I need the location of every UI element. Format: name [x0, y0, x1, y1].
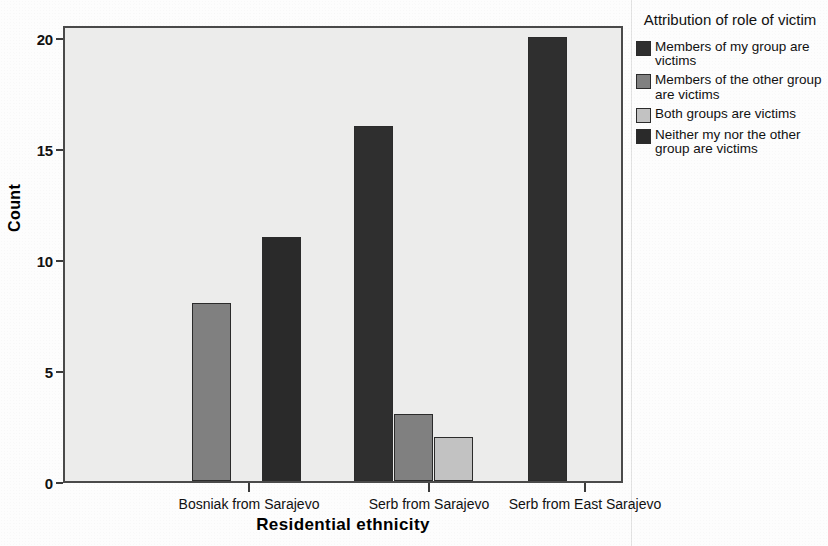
bar — [354, 126, 393, 481]
legend-item: Members of my group are victims — [636, 40, 824, 69]
legend-item: Neither my nor the other group are victi… — [636, 128, 824, 157]
y-axis-tick-mark — [56, 371, 63, 373]
legend-item: Both groups are victims — [636, 107, 824, 123]
column-divider — [631, 0, 632, 546]
bars-layer — [65, 28, 621, 481]
y-axis-title: Count — [6, 184, 24, 232]
legend: Attribution of role of victim Members of… — [636, 12, 824, 162]
legend-swatch — [636, 74, 651, 89]
legend-item-label: Neither my nor the other group are victi… — [655, 128, 824, 157]
y-axis-tick-label: 10 — [37, 254, 56, 269]
legend-item-label: Members of my group are victims — [655, 40, 824, 69]
y-axis-tick-label: 0 — [45, 476, 56, 491]
x-axis-tick-label: Serb from Sarajevo — [369, 496, 490, 512]
bar — [434, 437, 473, 481]
bar — [394, 414, 433, 481]
y-axis: 20151050 — [0, 0, 63, 546]
bar — [192, 303, 231, 481]
legend-item-label: Both groups are victims — [655, 107, 796, 121]
legend-swatch — [636, 108, 651, 123]
x-axis-tick-mark — [584, 483, 586, 492]
legend-item: Members of the other group are victims — [636, 73, 824, 102]
y-axis-tick-mark — [56, 482, 63, 484]
y-axis-tick-mark — [56, 260, 63, 262]
y-axis-tick-mark — [56, 38, 63, 40]
x-axis-tick-label: Bosniak from Sarajevo — [179, 496, 320, 512]
y-axis-tick-mark — [56, 149, 63, 151]
x-axis-title: Residential ethnicity — [63, 515, 623, 535]
y-axis-tick-label: 15 — [37, 143, 56, 158]
plot-area — [63, 26, 623, 483]
x-axis-tick-mark — [248, 483, 250, 492]
legend-swatch — [636, 41, 651, 56]
y-axis-tick-label: 5 — [45, 365, 56, 380]
x-axis-tick-mark — [428, 483, 430, 492]
x-axis-tick-label: Serb from East Sarajevo — [509, 496, 662, 512]
y-axis-tick-label: 20 — [37, 32, 56, 47]
bar — [262, 237, 301, 481]
legend-swatch — [636, 129, 651, 144]
legend-title: Attribution of role of victim — [636, 12, 824, 29]
bar-chart-figure: 20151050 Count Bosniak from SarajevoSerb… — [0, 0, 828, 546]
legend-item-label: Members of the other group are victims — [655, 73, 824, 102]
legend-items: Members of my group are victimsMembers o… — [636, 40, 824, 157]
bar — [528, 37, 567, 481]
